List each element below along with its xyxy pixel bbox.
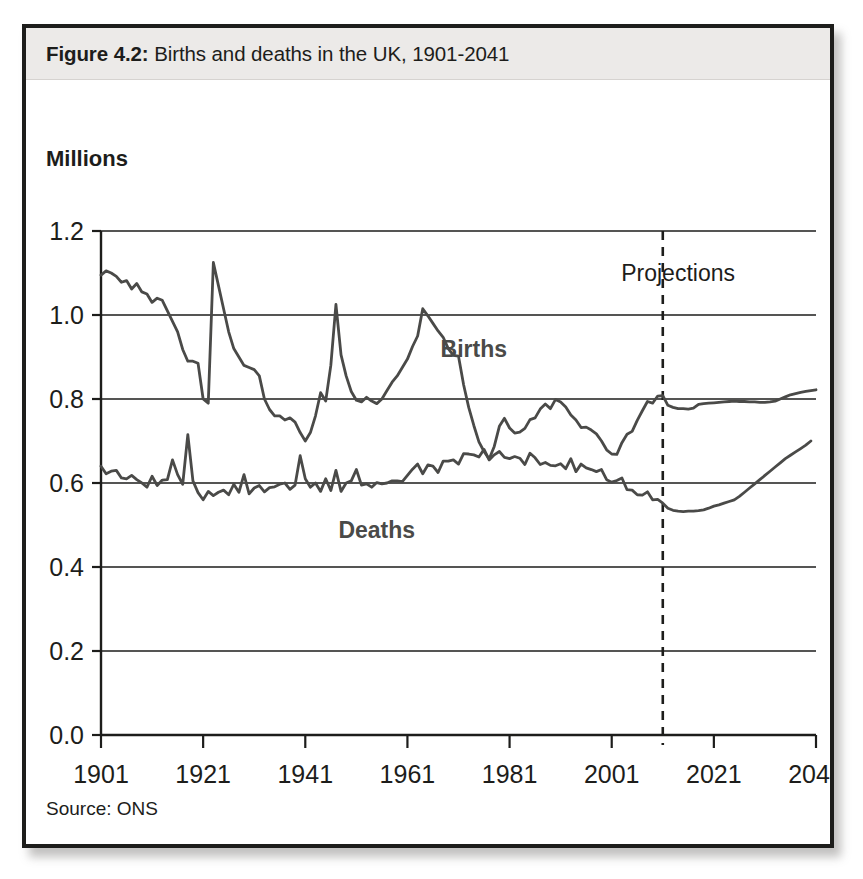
y-tick-labels-group: 0.00.20.40.60.81.01.2 <box>49 217 84 749</box>
line-chart: 0.00.20.40.60.81.01.2 190119211941196119… <box>26 80 830 852</box>
figure-container: Figure 4.2: Births and deaths in the UK,… <box>22 24 834 848</box>
deaths-series-label: Deaths <box>338 517 415 543</box>
y-tick-label: 0.0 <box>49 721 84 749</box>
y-tick-label: 1.2 <box>49 217 84 245</box>
y-tick-label: 0.2 <box>49 637 84 665</box>
source-note: Source: ONS <box>46 798 158 820</box>
x-tick-label: 1981 <box>482 760 538 788</box>
figure-title-rest: Births and deaths in the UK, 1901-2041 <box>149 42 510 65</box>
figure-title-bar: Figure 4.2: Births and deaths in the UK,… <box>26 28 830 80</box>
x-tick-label: 2041 <box>788 760 830 788</box>
y-tick-label: 0.8 <box>49 385 84 413</box>
annotations-group: ProjectionsBirthsDeaths <box>338 260 735 542</box>
y-tick-label: 0.6 <box>49 469 84 497</box>
births-series-label: Births <box>441 336 507 362</box>
y-tick-label: 0.4 <box>49 553 84 581</box>
y-tick-marks-group <box>92 231 101 735</box>
figure-title: Figure 4.2: Births and deaths in the UK,… <box>26 42 509 66</box>
y-tick-label: 1.0 <box>49 301 84 329</box>
x-tick-label: 1961 <box>380 760 436 788</box>
x-tick-label: 2001 <box>584 760 640 788</box>
x-tick-label: 1921 <box>175 760 231 788</box>
x-tick-labels-group: 19011921194119611981200120212041 <box>73 760 830 788</box>
gridlines-group <box>101 231 816 735</box>
x-tick-label: 1941 <box>277 760 333 788</box>
x-tick-marks-group <box>101 735 816 748</box>
plot-area-wrapper: 0.00.20.40.60.81.01.2 190119211941196119… <box>26 80 830 844</box>
deaths-line <box>101 435 811 512</box>
figure-number: Figure 4.2: <box>46 42 149 65</box>
x-tick-label: 2021 <box>686 760 742 788</box>
x-tick-label: 1901 <box>73 760 129 788</box>
projections-label: Projections <box>621 260 735 286</box>
